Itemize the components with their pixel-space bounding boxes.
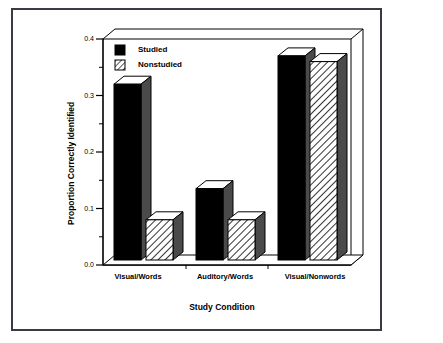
y-tick-label-0: 0.0 [76,261,94,268]
figure-container: 0.0 0.1 0.2 0.3 0.4 Visual/Words Auditor… [0,0,443,343]
y-tick-label-1: 0.1 [76,205,94,212]
bar-studied-visual-nonwords [278,48,315,260]
legend-label-nonstudied: Nonstudied [138,60,182,69]
y-axis-title: Proportion Correctly Identified [66,102,76,225]
x-category-label-auditory-words: Auditory/Words [183,272,267,281]
x-axis-title: Study Condition [167,302,277,312]
bar-group-visual-nonwords [278,48,347,260]
bar-nonstudied-visual-nonwords [310,54,347,260]
bar-studied-visual-words [114,76,151,260]
bar-nonstudied-auditory-words [228,212,265,260]
x-category-label-visual-nonwords: Visual/Nonwords [270,272,360,281]
y-tick-label-2: 0.2 [76,148,94,155]
bar-nonstudied-visual-words [146,212,183,260]
x-category-label-visual-words: Visual/Words [98,272,178,281]
y-axis [96,39,103,265]
x-axis [103,265,351,269]
legend-swatch-studied [115,45,125,55]
legend-label-studied: Studied [138,45,167,54]
bar-studied-auditory-words [196,181,233,260]
y-tick-label-4: 0.4 [76,35,94,42]
y-tick-label-3: 0.3 [76,92,94,99]
legend-swatch-nonstudied [115,60,125,70]
